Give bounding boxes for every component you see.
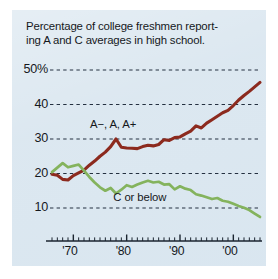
series-line-a-grades [52, 82, 260, 180]
chart-title-line-2: ing A and C averages in high school. [26, 34, 205, 46]
x-tick-label-70: '70 [62, 244, 77, 258]
gridlines-group [50, 70, 260, 208]
x-axis-group [46, 235, 262, 242]
y-tick-label-50: 50% [23, 62, 48, 76]
x-tick-label-00: '00 [222, 244, 237, 258]
x-tick-label-90: '90 [169, 244, 184, 258]
chart-panel: Percentage of college freshmen report- i… [12, 10, 266, 266]
chart-title-line-1: Percentage of college freshmen report- [26, 20, 218, 32]
series-label-c-or-below: C or below [113, 191, 166, 203]
y-tick-label-20: 20 [34, 166, 48, 180]
y-tick-label-30: 30 [34, 131, 48, 145]
series-label-a-grades: A−, A, A+ [90, 118, 136, 130]
y-tick-label-40: 40 [34, 97, 48, 111]
chart-title: Percentage of college freshmen report- i… [26, 19, 254, 47]
x-tick-label-80: '80 [116, 244, 131, 258]
chart-figure: Percentage of college freshmen report- i… [0, 0, 278, 279]
y-tick-label-10: 10 [34, 200, 48, 214]
chart-plot-area [12, 10, 266, 266]
